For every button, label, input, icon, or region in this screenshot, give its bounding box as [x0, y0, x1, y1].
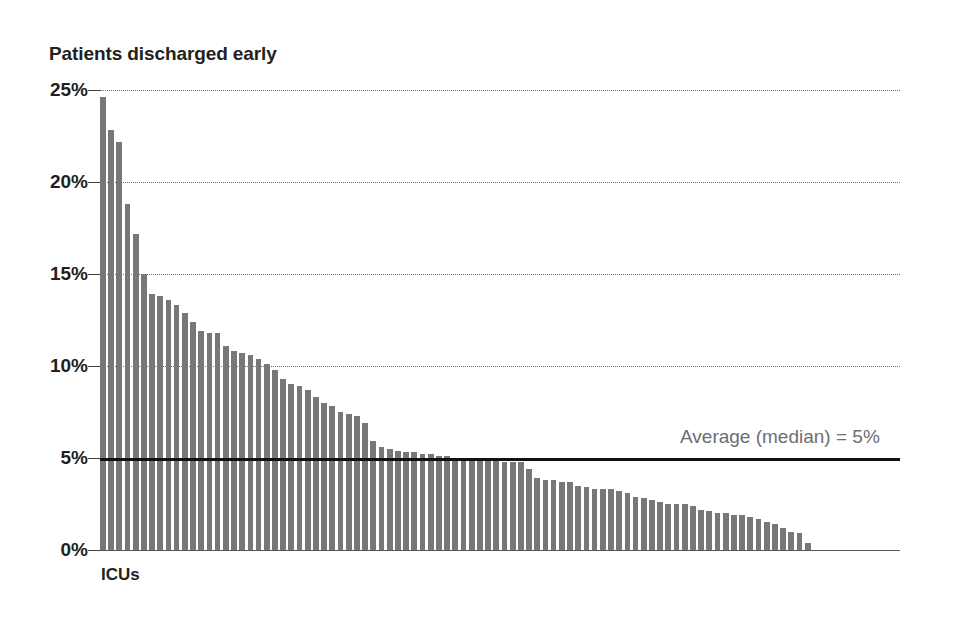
- bar: [477, 460, 483, 550]
- bar: [174, 305, 180, 550]
- bar: [321, 403, 327, 550]
- bar: [116, 142, 122, 550]
- bar: [469, 460, 475, 550]
- bar: [395, 451, 401, 550]
- bar: [649, 500, 655, 550]
- bar: [125, 204, 131, 550]
- bar: [764, 522, 770, 550]
- bar: [166, 300, 172, 550]
- bar: [248, 355, 254, 550]
- bar: [198, 331, 204, 550]
- bar: [543, 480, 549, 550]
- y-axis-tick-labels: 25%20%15%10%5%0%: [0, 90, 88, 550]
- chart-root: Patients discharged early 25%20%15%10%5%…: [0, 0, 953, 623]
- bar: [436, 456, 442, 550]
- x-axis-label: ICUs: [101, 565, 140, 585]
- y-axis-label-20: 20%: [50, 171, 88, 193]
- bar: [797, 533, 803, 550]
- bar: [411, 452, 417, 550]
- bar: [215, 333, 221, 550]
- y-axis-label-0: 0%: [61, 539, 88, 561]
- bar: [485, 460, 491, 550]
- bar: [788, 532, 794, 550]
- bar: [428, 454, 434, 550]
- bar: [780, 528, 786, 550]
- bar: [387, 449, 393, 550]
- y-tick-20: [88, 182, 100, 183]
- bar: [526, 469, 532, 550]
- bar: [190, 322, 196, 550]
- bar: [674, 504, 680, 550]
- bar: [715, 513, 721, 550]
- bar: [452, 458, 458, 550]
- y-axis-label-25: 25%: [50, 79, 88, 101]
- bar: [207, 333, 213, 550]
- bar: [329, 406, 335, 550]
- bar: [297, 386, 303, 550]
- bar: [141, 274, 147, 550]
- chart-title: Patients discharged early: [49, 43, 277, 65]
- median-reference-line: [100, 458, 900, 461]
- bar: [690, 506, 696, 550]
- bar: [182, 313, 188, 550]
- bar: [379, 447, 385, 550]
- bar-series: [100, 90, 900, 550]
- bar: [313, 397, 319, 550]
- bar: [706, 511, 712, 550]
- y-tick-5: [88, 458, 100, 459]
- y-tick-15: [88, 274, 100, 275]
- bar: [108, 130, 114, 550]
- bar: [223, 346, 229, 550]
- y-axis-label-15: 15%: [50, 263, 88, 285]
- bar: [346, 414, 352, 550]
- bar: [420, 454, 426, 550]
- bar: [493, 460, 499, 550]
- bar: [133, 234, 139, 550]
- plot-area: [100, 90, 900, 550]
- bar: [698, 510, 704, 550]
- bar: [747, 517, 753, 550]
- bar: [682, 504, 688, 550]
- bar: [551, 480, 557, 550]
- median-annotation-label: Average (median) = 5%: [680, 426, 880, 448]
- bar: [239, 353, 245, 550]
- bar: [657, 502, 663, 550]
- bar: [575, 486, 581, 550]
- bar: [149, 294, 155, 550]
- bar: [157, 296, 163, 550]
- bar: [305, 390, 311, 550]
- bar: [756, 519, 762, 550]
- y-axis-label-5: 5%: [61, 447, 88, 469]
- bar: [600, 489, 606, 550]
- bar: [592, 489, 598, 550]
- bar: [731, 515, 737, 550]
- bar: [616, 491, 622, 550]
- y-tick-10: [88, 366, 100, 367]
- bar: [641, 498, 647, 550]
- x-axis-line: [100, 550, 900, 551]
- bar: [231, 351, 237, 550]
- bar: [362, 423, 368, 550]
- bar: [665, 504, 671, 550]
- bar: [288, 384, 294, 550]
- bar: [723, 513, 729, 550]
- bar: [584, 487, 590, 550]
- bar: [805, 543, 811, 550]
- y-tick-25: [88, 90, 100, 91]
- bar: [510, 462, 516, 550]
- bar: [354, 416, 360, 550]
- bar: [100, 97, 106, 550]
- bar: [444, 456, 450, 550]
- bar: [559, 482, 565, 550]
- bar: [739, 515, 745, 550]
- bar: [625, 493, 631, 550]
- bar: [772, 524, 778, 550]
- bar: [256, 359, 262, 550]
- y-tick-0: [88, 550, 100, 551]
- bar: [338, 412, 344, 550]
- y-axis-label-10: 10%: [50, 355, 88, 377]
- bar: [280, 379, 286, 550]
- bar: [608, 489, 614, 550]
- bar: [633, 497, 639, 550]
- bar: [534, 478, 540, 550]
